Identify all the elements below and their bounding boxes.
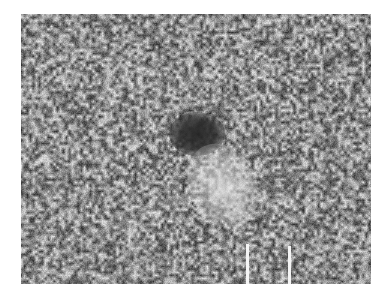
micrograph-image [21,14,371,284]
scale-bar-left-tick [246,244,249,284]
scale-bar-right-tick [288,246,291,284]
